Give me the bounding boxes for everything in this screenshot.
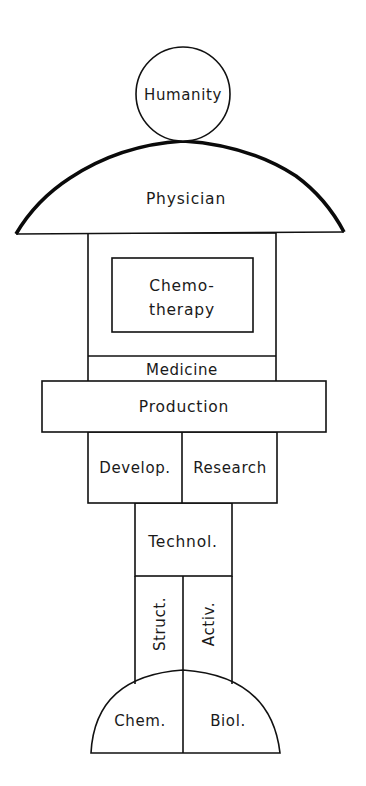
chemotherapy-label-line2: therapy [149,301,215,319]
chemotherapy-group: Chemo- therapy [112,258,253,332]
pillar-diagram: Chem. Biol. Struct. Activ. Technol. Deve… [0,0,366,786]
activity-label: Activ. [200,602,218,646]
production-group: Production [42,381,326,432]
chemotherapy-label-line1: Chemo- [149,277,214,295]
technology-label: Technol. [147,533,218,551]
base-dome-group: Chem. Biol. [91,670,280,753]
research-label: Research [193,459,267,477]
technology-group: Technol. [135,503,232,576]
columns-group: Struct. Activ. [135,576,232,684]
humanity-group: Humanity [136,47,230,141]
structure-label: Struct. [151,597,169,651]
production-label: Production [139,398,229,416]
biology-label: Biol. [210,712,246,730]
chemotherapy-box [112,258,253,332]
development-label: Develop. [99,459,170,477]
chemistry-label: Chem. [114,712,166,730]
medicine-label: Medicine [146,361,218,379]
humanity-label: Humanity [144,86,222,104]
physician-group: Physician [16,141,344,234]
physician-label: Physician [146,190,226,208]
develop-research-group: Develop. Research [88,432,277,503]
physician-dome-fill [16,141,344,234]
